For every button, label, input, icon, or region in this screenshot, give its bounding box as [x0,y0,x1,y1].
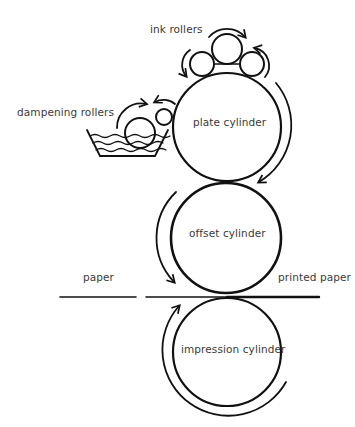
label-offset-cylinder: offset cylinder [189,227,266,239]
offset-press-diagram [0,0,355,427]
label-ink-rollers: ink rollers [150,23,203,35]
offset-rotation-arrow [156,192,176,282]
ink-rollers [182,29,269,77]
label-plate-cylinder: plate cylinder [193,116,266,128]
label-impression-cylinder: impression cylinder [181,343,285,355]
label-dampening-rollers: dampening rollers [17,106,114,118]
label-paper: paper [83,271,114,283]
label-printed-paper: printed paper [278,271,351,283]
